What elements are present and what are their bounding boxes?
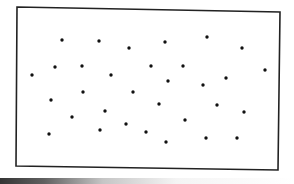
dot [124, 122, 127, 125]
dot [60, 38, 63, 41]
dot [157, 102, 160, 105]
dot [235, 136, 238, 139]
dot [181, 64, 184, 67]
frame-rectangle [16, 7, 280, 170]
dot [144, 130, 147, 133]
dot [127, 46, 130, 49]
dot [183, 118, 186, 121]
dot [81, 90, 84, 93]
dot [70, 115, 73, 118]
dot [215, 103, 218, 106]
dot [98, 128, 101, 131]
dot [224, 76, 227, 79]
dot [53, 65, 56, 68]
dot [109, 73, 112, 76]
dot [201, 83, 204, 86]
dot [163, 40, 166, 43]
dot [131, 90, 134, 93]
dot [166, 79, 169, 82]
dot [242, 110, 245, 113]
dot [204, 136, 207, 139]
scan-edge-shadow [0, 178, 294, 184]
dot [103, 109, 106, 112]
dot [30, 73, 33, 76]
dot [97, 39, 100, 42]
dot [263, 68, 266, 71]
dot-figure [0, 0, 294, 184]
dot-group [30, 35, 266, 143]
dot [49, 98, 52, 101]
dot [240, 46, 243, 49]
dot [164, 140, 167, 143]
dot [80, 64, 83, 67]
dot [205, 35, 208, 38]
dot [149, 64, 152, 67]
dot [47, 132, 50, 135]
